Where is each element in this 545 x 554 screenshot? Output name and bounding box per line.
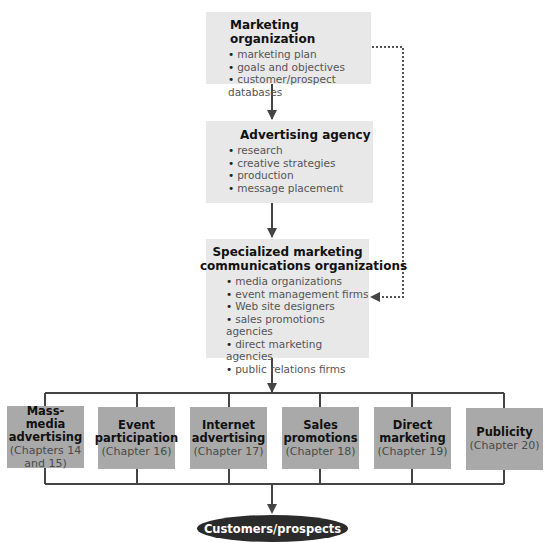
box-title: Advertising agency [240, 128, 373, 142]
specialized-organizations-box: Specialized marketing communications org… [206, 239, 369, 358]
list-item: production [228, 169, 373, 182]
channel-sales-promotions: Sales promotions (Chapter 18) [282, 407, 359, 469]
customers-prospects-oval: Customers/prospects [197, 515, 348, 542]
channel-internet: Internet advertising (Chapter 17) [190, 407, 267, 469]
channel-direct-marketing: Direct marketing (Chapter 19) [374, 407, 451, 469]
channel-chapter: (Chapter 17) [193, 445, 263, 458]
bullet-list: media organizations event management fir… [226, 275, 369, 375]
list-item: direct marketing agencies [226, 338, 369, 363]
box-title-line-1: Specialized marketing [206, 245, 369, 259]
channel-chapter: (Chapter 18) [285, 445, 355, 458]
advertising-agency-box: Advertising agency research creative str… [206, 121, 373, 203]
list-item: Web site designers [226, 300, 369, 313]
bullet-list: marketing plan goals and objectives cust… [228, 48, 371, 98]
box-title: Marketing organization [230, 18, 371, 46]
channel-chapter: (Chapter 20) [469, 439, 539, 452]
channel-name: Event participation [95, 419, 178, 445]
channel-name: Sales promotions [282, 419, 359, 445]
channel-name: Publicity [476, 426, 532, 439]
list-item: sales promotions agencies [226, 313, 369, 338]
channel-chapter: (Chapters 14 and 15) [7, 444, 84, 470]
list-item: media organizations [226, 275, 369, 288]
list-item: event management firms [226, 288, 369, 301]
channel-name: Direct marketing [374, 419, 451, 445]
channel-chapter: (Chapter 19) [377, 445, 447, 458]
list-item: message placement [228, 182, 373, 195]
channel-chapter: (Chapter 16) [101, 445, 171, 458]
channel-name: Mass-media advertising [7, 405, 84, 444]
channel-name: Internet advertising [190, 419, 267, 445]
list-item: goals and objectives [228, 61, 371, 74]
channel-mass-media: Mass-media advertising (Chapters 14 and … [7, 406, 84, 468]
list-item: marketing plan [228, 48, 371, 61]
marketing-organization-box: Marketing organization marketing plan go… [206, 12, 371, 84]
list-item: creative strategies [228, 157, 373, 170]
list-item: customer/prospect databases [228, 73, 371, 98]
box-title-line-2: communications organizations [200, 259, 375, 273]
list-item: public relations firms [226, 363, 369, 376]
list-item: research [228, 144, 373, 157]
channel-event: Event participation (Chapter 16) [98, 407, 175, 469]
channel-publicity: Publicity (Chapter 20) [466, 408, 543, 470]
bullet-list: research creative strategies production … [228, 144, 373, 194]
